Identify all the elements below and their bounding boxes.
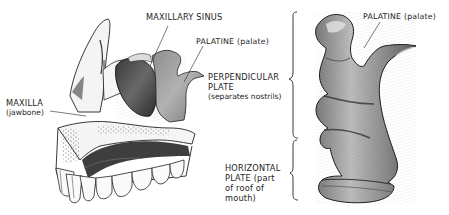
label-palatine-left: PALATINE (palate) xyxy=(196,37,269,47)
label-maxilla-sub: (jawbone) xyxy=(6,108,44,118)
anatomy-diagram: MAXILLARY SINUS PALATINE (palate) MAXILL… xyxy=(0,0,449,215)
label-horizontal-line3: of roof of xyxy=(225,183,280,193)
label-perpendicular-plate: PERPENDICULAR PLATE (separates nostrils) xyxy=(208,72,282,102)
label-horizontal-line2: PLATE (part xyxy=(225,173,280,183)
maxilla-drawing xyxy=(56,19,204,203)
braces xyxy=(289,12,298,200)
label-maxillary-sinus: MAXILLARY SINUS xyxy=(146,12,222,22)
label-perpendicular-line1: PERPENDICULAR xyxy=(208,72,282,82)
label-palatine-right: PALATINE (palate) xyxy=(363,12,436,22)
label-perpendicular-line2: PLATE xyxy=(208,82,282,92)
palatine-bone-drawing xyxy=(316,12,416,204)
teeth xyxy=(56,160,184,203)
label-perpendicular-sub: (separates nostrils) xyxy=(208,92,282,102)
label-horizontal-line4: mouth) xyxy=(225,193,280,203)
label-horizontal-line1: HORIZONTAL xyxy=(225,163,280,173)
label-maxilla-title: MAXILLA xyxy=(6,98,43,108)
label-maxilla: MAXILLA (jawbone) xyxy=(6,98,44,118)
label-horizontal-plate: HORIZONTAL PLATE (part of roof of mouth) xyxy=(225,163,280,203)
